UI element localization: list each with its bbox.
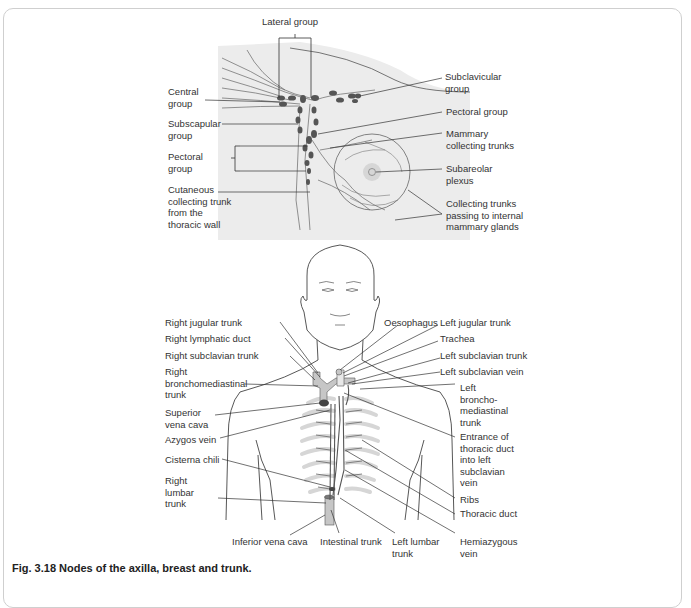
label-left-lumbar-trunk: Left lumbartrunk: [392, 536, 440, 559]
label-entrance-thoracic-duct: Entrance ofthoracic ductinto leftsubclav…: [460, 431, 514, 489]
label-left-jugular-trunk: Left jugular trunk: [440, 317, 511, 329]
label-pectoral-group-left: Pectoralgroup: [168, 151, 203, 174]
label-cisterna-chili: Cisterna chili: [165, 454, 219, 466]
label-subscapular-group: Subscapulargroup: [168, 118, 221, 141]
label-azygos-vein: Azygos vein: [165, 434, 216, 446]
figure-caption: Fig. 3.18 Nodes of the axilla, breast an…: [12, 562, 252, 574]
label-lateral-group: Lateral group: [262, 16, 318, 28]
label-right-subclavian-trunk: Right subclavian trunk: [165, 350, 258, 362]
label-intestinal-trunk: Intestinal trunk: [320, 536, 382, 548]
label-ribs: Ribs: [460, 494, 479, 506]
label-central-group: Centralgroup: [168, 86, 199, 109]
label-collecting-trunks-internal: Collecting trunkspassing to internalmamm…: [446, 198, 523, 233]
label-oesophagus: Oesophagus: [384, 317, 438, 329]
label-pectoral-group-right: Pectoral group: [446, 106, 508, 118]
label-right-lymphatic-duct: Right lymphatic duct: [165, 333, 251, 345]
label-inferior-vena-cava: Inferior vena cava: [232, 536, 308, 548]
trunk-illustration: [215, 245, 455, 535]
label-right-lumbar-trunk: Rightlumbartrunk: [165, 475, 194, 510]
label-subareolar-plexus: Subareolarplexus: [446, 163, 492, 186]
label-left-subclavian-trunk: Left subclavian trunk: [440, 350, 527, 362]
label-hemiazygous-vein: Hemiazygousvein: [460, 536, 518, 559]
label-mammary-collecting-trunks: Mammarycollecting trunks: [446, 128, 514, 151]
label-trachea: Trachea: [440, 333, 475, 345]
label-subclavicular-group: Subclaviculargroup: [445, 71, 502, 94]
label-superior-vena-cava: Superiorvena cava: [165, 407, 208, 430]
axilla-illustration: [205, 34, 470, 240]
label-cutaneous-trunk: Cutaneouscollecting trunkfrom thethoraci…: [168, 184, 231, 230]
label-right-bronchomediastinal-trunk: Rightbronchomediastinaltrunk: [165, 366, 247, 401]
label-right-jugular-trunk: Right jugular trunk: [165, 317, 242, 329]
label-left-bronchomediastinal-trunk: Leftbroncho-mediastinaltrunk: [460, 382, 508, 428]
label-left-subclavian-vein: Left subclavian vein: [440, 366, 523, 378]
label-thoracic-duct: Thoracic duct: [460, 508, 517, 520]
